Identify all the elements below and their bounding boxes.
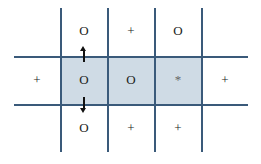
cell-r0-c3: O [155, 8, 201, 54]
cell-r1-c0: + [14, 57, 60, 103]
cell-r2-c3: + [155, 105, 201, 151]
cell-r1-c2: O [108, 57, 154, 103]
arrow-down-icon [83, 97, 85, 109]
cell-r1-c3: * [155, 57, 201, 103]
cell-r0-c2: + [108, 8, 154, 54]
cell-r2-c2: + [108, 105, 154, 151]
cell-r1-c4: + [202, 57, 248, 103]
arrow-up-icon [83, 50, 85, 62]
